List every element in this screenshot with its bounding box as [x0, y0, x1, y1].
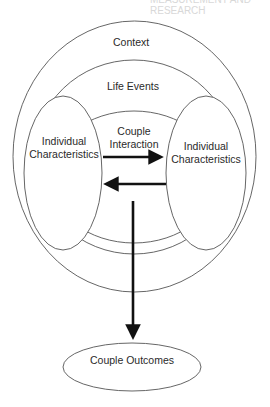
life-events-label: Life Events: [107, 80, 159, 93]
individual-left-label: Individual Characteristics: [26, 135, 102, 161]
couple-outcomes-label: Couple Outcomes: [82, 354, 182, 367]
individual-right-line2: Characteristics: [168, 153, 244, 166]
individual-left-line1: Individual: [26, 135, 102, 148]
individual-left-line2: Characteristics: [26, 148, 102, 161]
couple-outcomes-ellipse: [63, 343, 201, 391]
individual-left-ellipse: [24, 96, 102, 250]
couple-interaction-line2: Interaction: [104, 138, 164, 151]
individual-right-label: Individual Characteristics: [168, 140, 244, 166]
diagram-canvas: [0, 0, 270, 407]
couple-interaction-label: Couple Interaction: [104, 125, 164, 151]
couple-interaction-line1: Couple: [104, 125, 164, 138]
individual-right-line1: Individual: [168, 140, 244, 153]
context-label: Context: [113, 36, 149, 49]
individual-right-ellipse: [166, 96, 246, 250]
